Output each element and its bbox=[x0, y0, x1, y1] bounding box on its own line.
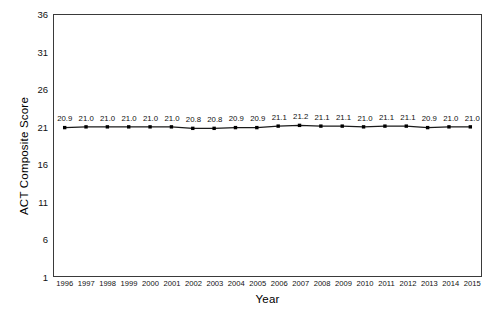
data-point-marker bbox=[148, 125, 151, 128]
data-point-marker bbox=[191, 127, 194, 130]
data-point-marker bbox=[276, 124, 279, 127]
series-line bbox=[65, 125, 471, 128]
y-tick-label: 16 bbox=[8, 161, 48, 171]
data-point-label: 21.0 bbox=[443, 115, 458, 123]
data-point-label: 21.2 bbox=[293, 113, 308, 121]
y-tick-label: 1 bbox=[8, 273, 48, 283]
data-point-marker bbox=[170, 125, 173, 128]
data-point-marker bbox=[362, 125, 365, 128]
x-axis-title: Year bbox=[53, 293, 482, 305]
data-point-marker bbox=[383, 124, 386, 127]
data-point-marker bbox=[341, 124, 344, 127]
data-point-label: 21.1 bbox=[336, 114, 351, 122]
y-tick-label: 31 bbox=[8, 48, 48, 58]
data-point-label: 21.0 bbox=[143, 115, 158, 123]
data-point-marker bbox=[255, 126, 258, 129]
data-point-label: 21.1 bbox=[379, 114, 394, 122]
y-tick-label: 26 bbox=[8, 85, 48, 95]
data-point-marker bbox=[298, 124, 301, 127]
y-tick-label: 11 bbox=[8, 198, 48, 208]
y-tick-label: 21 bbox=[8, 123, 48, 133]
x-tick-label: 2015 bbox=[464, 280, 481, 288]
data-point-marker bbox=[127, 125, 130, 128]
x-tick-label: 1999 bbox=[121, 280, 138, 288]
data-point-label: 20.8 bbox=[186, 116, 201, 124]
data-point-marker bbox=[447, 125, 450, 128]
x-tick-label: 1998 bbox=[99, 280, 116, 288]
x-tick-label: 2012 bbox=[399, 280, 416, 288]
data-point-label: 20.9 bbox=[57, 116, 72, 124]
data-point-label: 21.0 bbox=[100, 115, 115, 123]
y-tick-label: 6 bbox=[8, 236, 48, 246]
x-tick-label: 2004 bbox=[228, 280, 245, 288]
data-point-marker bbox=[319, 124, 322, 127]
x-tick-label: 2002 bbox=[185, 280, 202, 288]
data-point-label: 20.9 bbox=[250, 116, 265, 124]
x-tick-label: 2010 bbox=[357, 280, 374, 288]
x-tick-label: 2003 bbox=[206, 280, 223, 288]
data-point-label: 21.0 bbox=[79, 115, 94, 123]
data-point-label: 21.0 bbox=[121, 115, 136, 123]
y-tick-label: 36 bbox=[8, 10, 48, 20]
chart-figure: ACT Composite Score 16111621263136 19961… bbox=[0, 0, 504, 328]
x-tick-label: 2011 bbox=[378, 280, 394, 288]
x-tick-label: 2007 bbox=[292, 280, 309, 288]
x-tick-label: 1997 bbox=[78, 280, 95, 288]
data-point-marker bbox=[84, 125, 87, 128]
x-tick-label: 2014 bbox=[442, 280, 459, 288]
data-point-label: 21.1 bbox=[400, 114, 415, 122]
line-series bbox=[54, 15, 481, 276]
x-tick-label: 2000 bbox=[142, 280, 159, 288]
data-point-label: 20.9 bbox=[229, 116, 244, 124]
x-tick-label: 1996 bbox=[56, 280, 73, 288]
data-point-marker bbox=[106, 125, 109, 128]
plot-area: 16111621263136 1996199719981999200020012… bbox=[53, 14, 482, 277]
x-tick-label: 2008 bbox=[314, 280, 331, 288]
data-point-marker bbox=[426, 126, 429, 129]
data-point-marker bbox=[234, 126, 237, 129]
data-point-label: 21.1 bbox=[315, 114, 330, 122]
data-point-label: 21.1 bbox=[272, 114, 287, 122]
data-point-marker bbox=[405, 124, 408, 127]
data-point-label: 21.0 bbox=[164, 115, 179, 123]
x-tick-label: 2009 bbox=[335, 280, 352, 288]
data-point-label: 20.9 bbox=[422, 116, 437, 124]
x-tick-label: 2013 bbox=[421, 280, 438, 288]
data-point-marker bbox=[212, 127, 215, 130]
data-point-label: 20.8 bbox=[207, 116, 222, 124]
data-point-marker bbox=[469, 125, 472, 128]
data-point-marker bbox=[63, 126, 66, 129]
x-tick-label: 2006 bbox=[271, 280, 288, 288]
x-tick-label: 2001 bbox=[164, 280, 181, 288]
data-point-label: 21.0 bbox=[357, 115, 372, 123]
x-tick-label: 2005 bbox=[249, 280, 266, 288]
data-point-label: 21.0 bbox=[465, 115, 480, 123]
